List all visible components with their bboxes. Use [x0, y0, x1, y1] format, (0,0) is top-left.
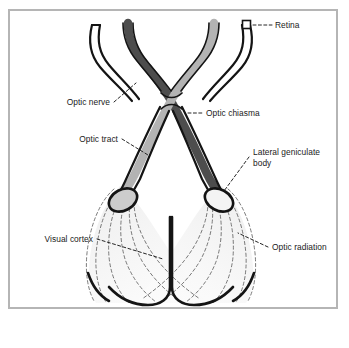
leader-lgb — [224, 157, 249, 191]
label-visual-cortex: Visual cortex — [45, 234, 94, 244]
retina-marker — [243, 21, 251, 29]
visual-pathway-diagram: Retina Optic nerve Optic chiasma Optic t… — [10, 11, 336, 307]
label-retina: Retina — [275, 20, 300, 30]
label-lateral-geniculate-body-line2: body — [253, 158, 272, 168]
label-optic-chiasma: Optic chiasma — [206, 108, 260, 118]
label-optic-radiation: Optic radiation — [272, 242, 327, 252]
label-optic-tract: Optic tract — [79, 134, 118, 144]
diagram-frame: Retina Optic nerve Optic chiasma Optic t… — [8, 9, 338, 309]
figure-root: Retina Optic nerve Optic chiasma Optic t… — [0, 0, 349, 348]
label-lateral-geniculate-body-line1: Lateral geniculate — [253, 147, 320, 157]
label-optic-nerve: Optic nerve — [67, 97, 111, 107]
